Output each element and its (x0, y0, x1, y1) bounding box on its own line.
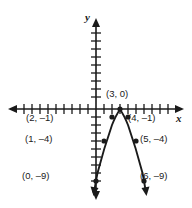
graph-screenshot: y x (0, –9) (1, –4) (2, –1) (3, 0) (4, –… (0, 0, 192, 208)
data-point (101, 138, 106, 143)
point-label-5: (5, –4) (140, 134, 167, 144)
x-axis-left-arrowhead (8, 105, 17, 113)
data-point (93, 178, 98, 183)
point-label-0: (0, –9) (22, 171, 49, 181)
point-label-1: (1, –4) (25, 134, 52, 144)
point-label-3: (3, 0) (106, 89, 128, 99)
data-point (117, 106, 122, 111)
data-point (109, 114, 114, 119)
curve-right-arrowhead (142, 187, 150, 197)
point-label-6: (6, –9) (140, 171, 167, 181)
x-axis-label: x (176, 113, 182, 124)
point-label-2: (2, –1) (26, 113, 53, 123)
y-axis-label: y (85, 12, 90, 23)
y-axis-top-arrowhead (92, 18, 100, 27)
data-point (133, 138, 138, 143)
point-label-4: (4, –1) (128, 113, 155, 123)
